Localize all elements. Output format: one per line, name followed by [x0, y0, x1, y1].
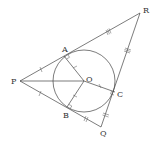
label-B: B: [63, 111, 69, 120]
label-O: O: [86, 75, 93, 84]
tangent-circle-diagram: P R Q A B C O: [0, 0, 159, 146]
radius-OA: [64, 56, 84, 81]
label-C: C: [117, 90, 123, 99]
radius-OB: [67, 81, 84, 107]
label-Q: Q: [100, 129, 107, 138]
ticks-BQ: [84, 116, 88, 122]
ticks-RC: [124, 48, 131, 53]
ticks-AR: [106, 28, 111, 35]
label-A: A: [61, 45, 68, 54]
tick-OC: [99, 84, 101, 88]
segment-RQ: [101, 13, 140, 127]
segment-PR: [20, 13, 140, 81]
label-P: P: [11, 77, 17, 86]
tick-OA: [73, 66, 77, 68]
segment-PQ: [20, 81, 101, 127]
label-R: R: [143, 6, 150, 15]
